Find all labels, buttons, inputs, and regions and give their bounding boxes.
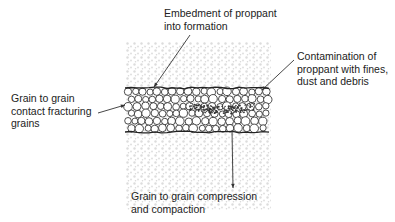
label-embedment: Embedment of proppant into formation [164, 7, 277, 32]
label-line: contact fracturing [11, 105, 92, 118]
leader-line-grain-contact [98, 105, 125, 113]
label-line: dust and debris [297, 75, 388, 88]
label-line: Grain to grain [11, 92, 92, 105]
label-line: into formation [164, 20, 277, 33]
label-line: proppant with fines, [297, 63, 388, 76]
label-compression: Grain to grain compression and compactio… [131, 190, 257, 215]
label-line: and compaction [131, 203, 257, 216]
label-grain-contact: Grain to grain contact fracturing grains [11, 92, 92, 130]
label-line: Grain to grain compression [131, 190, 257, 203]
label-line: Contamination of [297, 50, 388, 63]
label-line: grains [11, 117, 92, 130]
label-line: Embedment of proppant [164, 7, 277, 20]
label-contamination: Contamination of proppant with fines, du… [297, 50, 388, 88]
